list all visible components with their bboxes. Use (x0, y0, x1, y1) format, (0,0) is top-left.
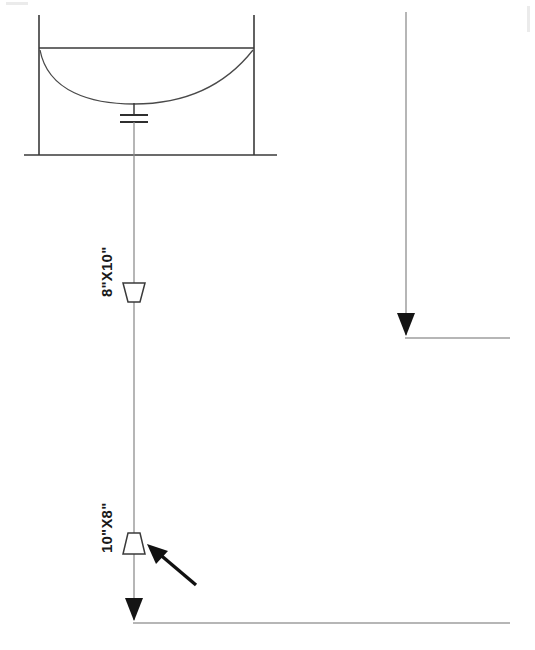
reducer-callout-arrow (147, 544, 196, 585)
scan-artifact (6, 2, 28, 5)
right-pipe-arrowhead (397, 313, 415, 336)
piping-diagram: 8"X10" 10"X8" (0, 0, 535, 650)
callout-arrow-shaft (157, 552, 196, 585)
lower-reducer-body (123, 533, 145, 554)
main-pipe-arrowhead (125, 598, 143, 621)
main-drain-pipe-group (125, 122, 510, 623)
flange-coupling-fitting (120, 103, 148, 122)
lower-reducer (123, 533, 145, 554)
callout-arrow-head (147, 544, 168, 564)
vessel-group (24, 15, 277, 155)
lower-reducer-label: 10"X8" (98, 503, 115, 553)
upper-reducer-body (123, 283, 145, 302)
upper-reducer (123, 283, 145, 302)
right-pipe-group (397, 12, 510, 338)
vessel-dished-bottom (40, 50, 253, 104)
piping-diagram-canvas: 8"X10" 10"X8" (0, 0, 535, 650)
scan-artifact (527, 6, 530, 32)
upper-reducer-label: 8"X10" (98, 247, 115, 297)
